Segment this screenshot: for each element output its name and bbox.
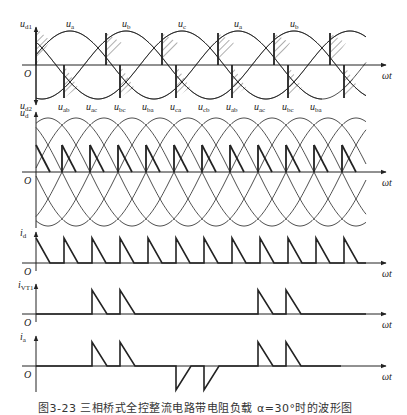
y-axis-label: id: [20, 227, 27, 240]
y-axis-label: ia: [20, 331, 27, 344]
x-axis-label: ωt: [382, 319, 392, 330]
curve-label-ua: ua: [234, 18, 243, 31]
curve-label-uac: uac: [86, 101, 97, 114]
shaded-area: [330, 33, 346, 65]
shaded-area: [162, 33, 178, 65]
shaded-area: [64, 65, 78, 98]
line-voltage-curve: [36, 127, 104, 226]
shaded-area: [36, 28, 50, 65]
shaded-area: [120, 65, 134, 98]
curve-label-ucb: ucb: [198, 101, 210, 114]
curve-label-uab: uab: [58, 101, 70, 114]
line-voltage-curve: [300, 130, 366, 226]
origin-label: O: [24, 317, 31, 328]
curve-label-ubc: ubc: [282, 101, 294, 114]
line-voltage-curve: [36, 221, 48, 226]
curve-label-uba: uba: [310, 101, 323, 114]
curve-label-uc: uc: [178, 18, 186, 31]
origin-label: O: [24, 369, 31, 380]
shaded-area: [218, 33, 234, 65]
output-voltage-segment: [36, 145, 50, 172]
x-axis-label: ωt: [382, 177, 392, 188]
line-voltage-curve: [328, 180, 366, 226]
x-axis-label: ωt: [382, 70, 392, 81]
shaded-area: [106, 33, 122, 65]
curve-label-ub: ub: [122, 18, 131, 31]
phase-voltage-curve-negative: [350, 31, 366, 37]
load-current-waveform: [36, 238, 366, 263]
figure-caption: 图3-23 三相桥式全控整流电路带电阻负载 α=30°时的波形图: [38, 399, 353, 415]
curve-label-ubc: ubc: [114, 101, 126, 114]
y-axis-label: iVT1: [18, 279, 34, 292]
curve-label-uac: uac: [254, 101, 265, 114]
curve-label-uca: uca: [170, 101, 182, 114]
curve-label-uba: uba: [142, 101, 155, 114]
shaded-area: [288, 65, 302, 98]
y-axis-label-top: ud1: [20, 18, 33, 31]
line-voltage-curve: [356, 222, 366, 226]
shaded-area: [176, 65, 190, 98]
shaded-area: [232, 65, 246, 98]
shaded-area: [344, 65, 358, 98]
waveform-layer: ud1ud2ωtOuaubucuaubudωtOuabuacubcubaucau…: [18, 18, 392, 392]
origin-label: O: [24, 175, 31, 186]
origin-label: O: [24, 68, 31, 79]
x-axis-label: ωt: [382, 268, 392, 279]
shaded-area: [274, 33, 290, 65]
origin-label: O: [24, 266, 31, 277]
x-axis-label: ωt: [382, 371, 392, 382]
curve-label-uab: uab: [226, 101, 238, 114]
curve-label-ub: ub: [290, 18, 299, 31]
thyristor-current-waveform: [36, 290, 366, 314]
curve-label-ua: ua: [66, 18, 75, 31]
